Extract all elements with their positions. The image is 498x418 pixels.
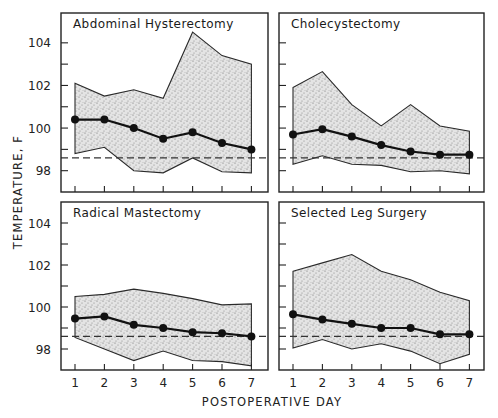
panel-title: Radical Mastectomy — [73, 206, 201, 220]
mean-point-day-7 — [247, 332, 255, 340]
mean-point-day-1 — [289, 130, 297, 138]
x-tick-label-day-4: 4 — [159, 376, 167, 390]
range-band — [293, 72, 469, 174]
x-tick-label-day-3: 3 — [130, 376, 138, 390]
mean-point-day-6 — [218, 139, 226, 147]
y-tick-label-104: 104 — [28, 36, 51, 50]
mean-point-day-1 — [71, 116, 79, 124]
mean-point-day-2 — [100, 312, 108, 320]
mean-point-day-7 — [247, 145, 255, 153]
x-tick-label-day-5: 5 — [407, 376, 415, 390]
panel-radical-mastectomy: 981001021041234567Radical Mastectomy — [28, 202, 268, 390]
panel-selected-leg-surgery: 1234567Selected Leg Surgery — [279, 202, 484, 390]
mean-point-day-3 — [130, 124, 138, 132]
y-tick-label-100: 100 — [28, 122, 51, 136]
range-band — [293, 255, 469, 364]
mean-point-day-7 — [465, 151, 473, 159]
mean-point-day-3 — [348, 320, 356, 328]
x-tick-label-day-4: 4 — [377, 376, 385, 390]
panels-group: 98100102104Abdominal HysterectomyCholecy… — [28, 13, 484, 390]
x-tick-label-day-6: 6 — [218, 376, 226, 390]
x-tick-label-day-3: 3 — [348, 376, 356, 390]
range-band — [75, 32, 251, 173]
x-tick-label-day-7: 7 — [466, 376, 474, 390]
mean-point-day-5 — [189, 328, 197, 336]
mean-point-day-2 — [318, 316, 326, 324]
y-tick-label-98: 98 — [36, 343, 51, 357]
mean-point-day-1 — [289, 310, 297, 318]
y-axis-label: TEMPERATURE, F — [11, 135, 25, 250]
x-tick-label-day-2: 2 — [319, 376, 327, 390]
y-tick-label-98: 98 — [36, 164, 51, 178]
mean-point-day-6 — [436, 151, 444, 159]
x-tick-label-day-1: 1 — [71, 376, 79, 390]
panel-abdominal-hysterectomy: 98100102104Abdominal Hysterectomy — [28, 13, 268, 192]
panel-title: Selected Leg Surgery — [291, 206, 427, 220]
y-tick-label-102: 102 — [28, 79, 51, 93]
mean-point-day-5 — [189, 128, 197, 136]
x-tick-label-day-1: 1 — [289, 376, 297, 390]
panel-title: Cholecystectomy — [291, 17, 401, 31]
mean-point-day-6 — [218, 329, 226, 337]
mean-point-day-1 — [71, 315, 79, 323]
y-tick-label-100: 100 — [28, 301, 51, 315]
x-tick-label-day-6: 6 — [436, 376, 444, 390]
x-tick-label-day-5: 5 — [189, 376, 197, 390]
panel-title: Abdominal Hysterectomy — [73, 17, 234, 31]
mean-point-day-4 — [377, 324, 385, 332]
mean-point-day-7 — [465, 330, 473, 338]
mean-point-day-6 — [436, 330, 444, 338]
mean-point-day-4 — [159, 135, 167, 143]
mean-point-day-3 — [348, 133, 356, 141]
temperature-chart-figure: TEMPERATURE, F POSTOPERATIVE DAY 9810010… — [0, 0, 498, 418]
y-tick-label-102: 102 — [28, 259, 51, 273]
mean-point-day-2 — [100, 116, 108, 124]
mean-point-day-4 — [377, 141, 385, 149]
mean-point-day-3 — [130, 321, 138, 329]
mean-point-day-2 — [318, 125, 326, 133]
mean-point-day-4 — [159, 324, 167, 332]
x-axis-label: POSTOPERATIVE DAY — [202, 395, 342, 409]
mean-point-day-5 — [407, 148, 415, 156]
mean-point-day-5 — [407, 324, 415, 332]
panel-cholecystectomy: Cholecystectomy — [279, 13, 484, 192]
x-tick-label-day-2: 2 — [101, 376, 109, 390]
y-tick-label-104: 104 — [28, 217, 51, 231]
x-tick-label-day-7: 7 — [248, 376, 256, 390]
